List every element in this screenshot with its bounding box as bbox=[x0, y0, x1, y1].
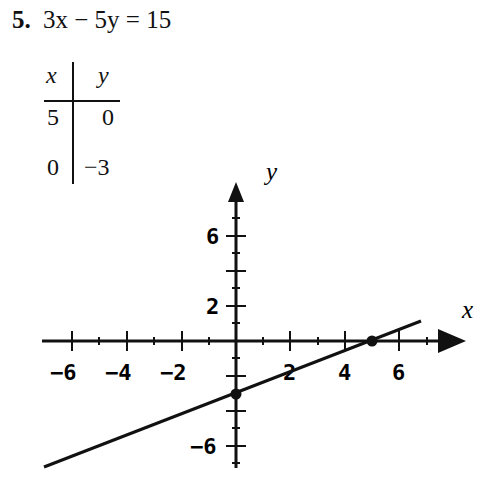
y-axis-arrow-icon bbox=[228, 182, 244, 202]
y-tick-label: 2 bbox=[206, 294, 219, 319]
graph: −6 −4 −2 2 4 6 6 2 −6 y x bbox=[0, 0, 502, 490]
x-tick-label: −6 bbox=[50, 360, 77, 385]
x-tick-label: −4 bbox=[105, 360, 132, 385]
x-tick-label: 6 bbox=[392, 360, 405, 385]
x-axis-label: x bbox=[461, 296, 473, 323]
x-tick-label: 4 bbox=[338, 360, 351, 385]
x-tick-label: −2 bbox=[160, 360, 187, 385]
y-tick-label: 6 bbox=[206, 224, 219, 249]
x-axis-arrow-icon bbox=[438, 329, 466, 353]
point-x-intercept bbox=[367, 336, 378, 347]
point-y-intercept bbox=[231, 389, 242, 400]
y-axis-label: y bbox=[263, 158, 278, 185]
y-tick-label: −6 bbox=[190, 434, 217, 459]
